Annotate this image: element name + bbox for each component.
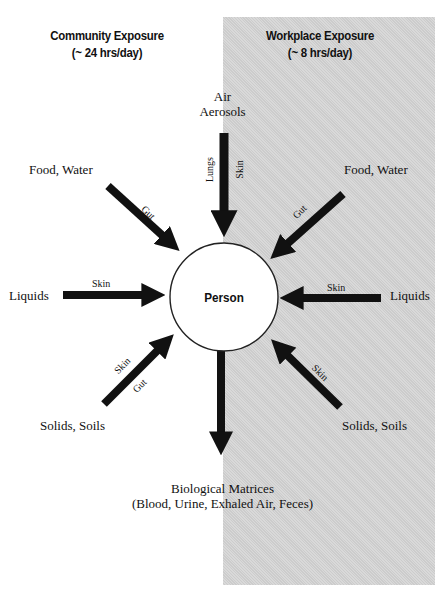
source-liquids-left: Liquids xyxy=(9,288,49,303)
route-liquids-left-skin: Skin xyxy=(92,278,110,289)
arrow-solids-right xyxy=(287,355,340,407)
person-label: Person xyxy=(204,290,244,305)
source-solids-left: Solids, Soils xyxy=(40,418,105,433)
route-air-lungs: Lungs xyxy=(204,157,215,182)
source-food-water-left: Food, Water xyxy=(29,162,93,177)
person-node: Person xyxy=(170,243,278,351)
route-air-skin: Skin xyxy=(234,160,245,178)
source-solids-right: Solids, Soils xyxy=(342,418,407,433)
source-liquids-right: Liquids xyxy=(390,288,430,303)
arrow-food-right xyxy=(287,194,343,244)
source-food-water-right: Food, Water xyxy=(344,162,408,177)
source-biological-matrices: Biological Matrices (Blood, Urine, Exhal… xyxy=(110,481,335,511)
source-air: Air Aerosols xyxy=(190,89,255,119)
route-liquids-right-skin: Skin xyxy=(327,282,345,293)
arrow-solids-left xyxy=(104,350,158,404)
